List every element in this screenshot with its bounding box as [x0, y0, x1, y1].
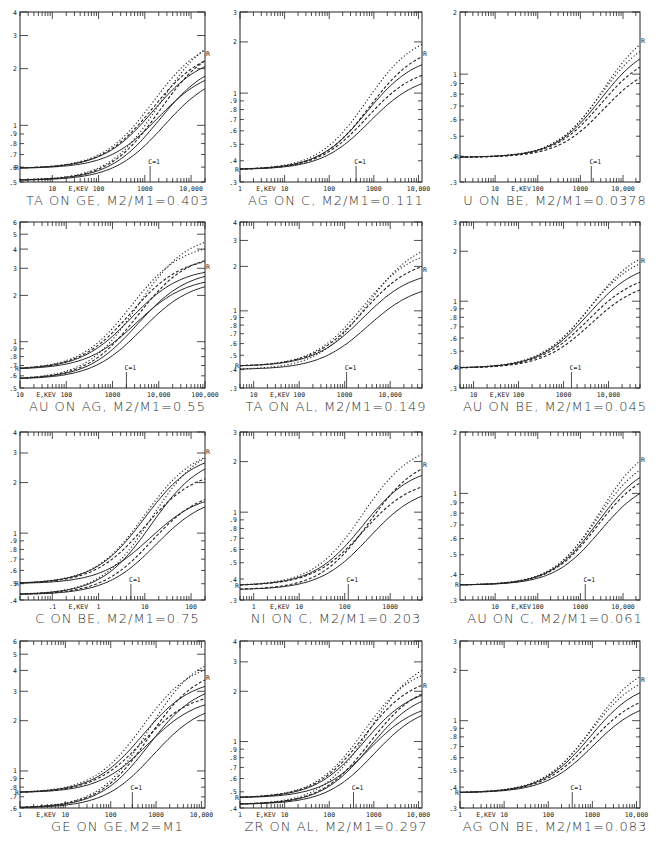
- y-tick-label: 1: [13, 122, 17, 130]
- c-equals-1-annotation: C=1: [148, 158, 160, 166]
- y-tick-label: .8: [9, 546, 17, 554]
- x-tick-label: 10: [295, 603, 303, 611]
- chart-title: NI ON C, M2/M1=0.203: [240, 611, 432, 626]
- y-tick-label: .8: [449, 510, 457, 518]
- solid-curve: [20, 686, 205, 792]
- y-tick-label: .6: [229, 775, 237, 783]
- dotted-curve: [240, 252, 422, 369]
- y-tick-label: 3: [13, 688, 17, 696]
- x-axis-label: E,KEV: [476, 811, 496, 819]
- dashed-curve: [240, 685, 422, 797]
- solid-curve: [20, 272, 205, 368]
- solid-curve: [20, 67, 205, 168]
- x-tick-label: 1000: [573, 603, 589, 611]
- x-axis-label: E,KEV: [511, 185, 531, 193]
- y-tick-label: .6: [229, 340, 237, 348]
- y-tick-label: .3: [449, 179, 457, 187]
- y-tick-label: 2: [13, 479, 17, 487]
- x-tick-label: 10,000: [179, 185, 203, 193]
- y-tick-label: 4: [233, 638, 237, 646]
- x-tick-label: 10,000: [147, 391, 171, 399]
- end-marker-label: R: [423, 461, 427, 469]
- y-tick-label: 2: [13, 717, 17, 725]
- plot-area: 321.9.8.7.6.5.4.3110100100010,000E,KEVC=…: [460, 641, 640, 820]
- x-tick-label: 1: [458, 811, 462, 819]
- x-axis-label: E,KEV: [69, 185, 89, 193]
- x-tick-label: 100: [60, 391, 72, 399]
- chart-title: U ON BE, M2/M1=0.0378: [460, 193, 650, 208]
- y-tick-label: .7: [449, 743, 457, 751]
- c-equals-1-annotation: C=1: [352, 784, 364, 792]
- y-tick-label: 5: [13, 231, 17, 239]
- end-marker-label: R: [423, 50, 427, 58]
- solid-curve: [240, 701, 422, 804]
- y-tick-label: .7: [9, 556, 17, 564]
- end-marker-label: R: [206, 263, 210, 271]
- x-tick-label: 100: [105, 811, 117, 819]
- dotted-curve: [460, 470, 640, 585]
- c-equals-1-annotation: C=1: [129, 576, 141, 584]
- plot-area: 654321.9.8.7.6.510100100010,000100,000E,…: [20, 222, 205, 400]
- y-tick-label: .5: [9, 179, 17, 187]
- dotted-curve: [240, 676, 422, 798]
- x-tick-label: 1000: [382, 603, 398, 611]
- solid-curve: [240, 695, 422, 797]
- y-tick-label: 1: [453, 490, 457, 498]
- x-tick-label: 1000: [105, 391, 121, 399]
- y-tick-label: .5: [449, 348, 457, 356]
- solid-curve: [20, 502, 205, 584]
- x-tick-label: 100: [323, 185, 335, 193]
- y-tick-label: .4: [449, 571, 457, 579]
- dotted-curve: [460, 52, 640, 158]
- plot-area: 4321.9.8.7.6.5.4.310100100010,000E,KEVC=…: [240, 222, 422, 400]
- solid-curve: [460, 711, 640, 793]
- c-equals-1-annotation: C=1: [346, 576, 358, 584]
- y-tick-label: 2: [233, 458, 237, 466]
- x-tick-label: 10: [16, 391, 24, 399]
- y-tick-label: 5: [13, 651, 17, 659]
- dashed-curve: [240, 75, 422, 169]
- y-tick-label: 2: [13, 65, 17, 73]
- chart-title: AU ON AG, M2/M1=0.55: [20, 399, 215, 414]
- solid-curve: [20, 713, 205, 807]
- y-tick-label: .8: [229, 525, 237, 533]
- y-tick-label: .8: [449, 91, 457, 99]
- y-tick-label: 4: [13, 667, 17, 675]
- dotted-curve: [20, 242, 205, 378]
- dotted-curve: [460, 45, 640, 158]
- chart-title: TA ON AL, M2/M1=0.149: [240, 399, 432, 414]
- dotted-curve: [20, 50, 205, 167]
- plot-frame: [20, 12, 205, 182]
- x-tick-label: 10: [141, 603, 149, 611]
- dotted-curve: [20, 458, 205, 594]
- dotted-curve: [20, 666, 205, 807]
- end-marker-label: R: [641, 676, 645, 684]
- x-tick-label: 1000: [137, 185, 153, 193]
- x-tick-label: 1000: [585, 811, 601, 819]
- y-tick-label: .5: [449, 133, 457, 141]
- y-tick-label: .6: [9, 567, 17, 575]
- chart-title: AU ON BE, M2/M1=0.045: [460, 399, 650, 414]
- y-tick-label: 2: [233, 38, 237, 46]
- solid-curve: [460, 478, 640, 585]
- y-tick-label: 3: [13, 449, 17, 457]
- y-tick-label: .9: [449, 499, 457, 507]
- y-tick-label: .6: [449, 335, 457, 343]
- y-tick-label: .9: [9, 345, 17, 353]
- chart-panel: 321.9.8.7.6.5.4.31101001000E,KEVC=1RRNI …: [240, 432, 422, 630]
- y-tick-label: .6: [449, 116, 457, 124]
- dashed-curve: [240, 487, 422, 585]
- y-tick-label: .4: [9, 597, 17, 605]
- solid-curve: [460, 59, 640, 157]
- x-tick-label: 1000: [366, 811, 382, 819]
- c-equals-1-annotation: C=1: [570, 784, 582, 792]
- x-tick-label: 10: [491, 603, 499, 611]
- x-tick-label: 100: [185, 603, 197, 611]
- chart-panel: 654321.9.8.7.6110100100010,000E,KEVC=1RR…: [20, 641, 205, 838]
- plot-area: 21.9.8.7.6.5.4.310100100010,000E,KEVC=1R…: [460, 432, 640, 612]
- y-tick-label: 3: [233, 9, 237, 17]
- solid-curve: [240, 292, 422, 370]
- chart-title: C ON BE, M2/M1=0.75: [20, 611, 215, 626]
- plot-frame: [240, 12, 422, 182]
- x-tick-label: 1: [238, 811, 242, 819]
